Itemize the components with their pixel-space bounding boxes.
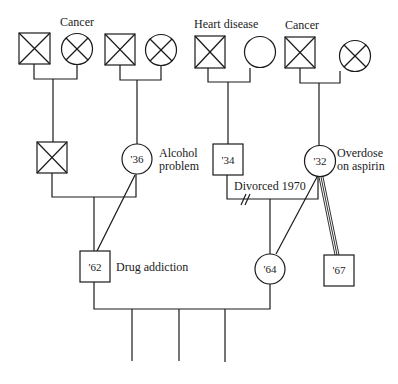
- gen4-children-lines: [132, 309, 225, 362]
- gen1-couple3-marriage-line: [208, 68, 250, 82]
- gen1-couple1-marriage-line: [34, 64, 77, 79]
- gen1-couple1: Cancer: [19, 15, 94, 142]
- gen1-couple3-label: Heart disease: [194, 17, 258, 31]
- gen3-person1-year: '62: [89, 261, 102, 273]
- gen3-person2-year: '64: [264, 263, 277, 275]
- gen2-person3: '34: [213, 144, 243, 175]
- gen1-couple4: Cancer: [285, 18, 371, 145]
- gen3-person2: '64: [255, 254, 285, 284]
- gen2-person4-year: '32: [314, 155, 327, 167]
- gen2-person2-note-line1: Alcohol: [159, 146, 198, 160]
- gen1-couple2-female-deceased-icon: [146, 35, 177, 66]
- gen2-person2-year: '36: [131, 153, 144, 165]
- gen1-couple2: [105, 34, 177, 144]
- gen1-couple4-marriage-line: [300, 68, 340, 83]
- gen2-person1-male-deceased-icon: [37, 142, 67, 173]
- gen2-person2-to-gen3-person1-line: [97, 175, 135, 251]
- gen3-marriage-line: [94, 282, 270, 309]
- gen3-person1-note: Drug addiction: [116, 260, 188, 274]
- gen2-person2-note-line2: problem: [159, 159, 200, 173]
- gen1-couple4-male-deceased-icon: [285, 37, 315, 68]
- gen3-person3: '67: [324, 255, 354, 286]
- gen2-person4: '32 Overdose on aspirin: [305, 146, 385, 177]
- gen2-left-marriage-line: [52, 173, 136, 197]
- gen2-person4-note-line2: on aspirin: [337, 159, 385, 173]
- gen2-person4-to-gen3-person3-triple-line: [319, 177, 339, 255]
- gen1-couple3: Heart disease: [194, 17, 276, 144]
- divorce-label: Divorced 1970: [234, 179, 306, 193]
- gen1-couple1-label: Cancer: [60, 15, 94, 29]
- gen1-couple3-female-living-icon: [245, 37, 276, 68]
- genogram-canvas: Cancer Heart disease: [0, 0, 398, 384]
- gen3-person3-year: '67: [333, 264, 346, 276]
- gen1-couple1-female-deceased-icon: [62, 34, 93, 65]
- gen2-person3-year: '34: [222, 154, 235, 166]
- gen2-person2: '36 Alcohol problem: [122, 144, 200, 174]
- gen1-couple2-marriage-line: [120, 65, 161, 80]
- gen1-couple1-male-deceased-icon: [19, 33, 50, 64]
- gen2-person4-note-line1: Overdose: [337, 146, 383, 160]
- gen1-couple4-label: Cancer: [285, 18, 319, 32]
- gen1-couple2-male-deceased-icon: [105, 34, 135, 65]
- gen1-couple4-female-deceased-icon: [340, 41, 371, 72]
- gen3-person1: '62 Drug addiction: [80, 251, 188, 282]
- gen1-couple3-male-deceased-icon: [195, 36, 225, 68]
